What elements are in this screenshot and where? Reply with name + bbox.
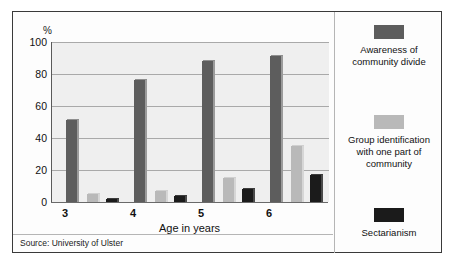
- chart-plot-column: % 100 80 60 40 20 0: [13, 12, 333, 253]
- x-tick-6: 6: [249, 207, 289, 219]
- bar-awareness-3[interactable]: [66, 120, 79, 202]
- x-tick-5: 5: [181, 207, 221, 219]
- source-note: Source: University of Ulster: [20, 238, 123, 248]
- bar-group-6: [270, 42, 326, 202]
- y-tick-20: 20: [17, 164, 47, 176]
- x-tick-3: 3: [45, 207, 85, 219]
- x-tick-4: 4: [113, 207, 153, 219]
- chart-figure: % 100 80 60 40 20 0: [12, 11, 442, 253]
- bar-sectarianism-5[interactable]: [242, 189, 255, 202]
- bar-awareness-6[interactable]: [270, 56, 283, 202]
- bar-awareness-5[interactable]: [202, 61, 215, 202]
- legend-label-groupid-line1: Group identification: [335, 134, 443, 146]
- legend-label-sectarianism-line1: Sectarianism: [335, 227, 443, 239]
- plot-area: [51, 42, 329, 202]
- chart-legend: Awareness of community divide Group iden…: [335, 12, 443, 253]
- y-tick-60: 60: [17, 100, 47, 112]
- bar-groupid-3[interactable]: [87, 194, 100, 202]
- bar-group-4: [134, 42, 190, 202]
- legend-label-groupid-line2: with one part of: [335, 146, 443, 158]
- x-axis-title: Age in years: [51, 222, 328, 234]
- source-divider: [13, 234, 333, 235]
- y-tick-80: 80: [17, 68, 47, 80]
- legend-swatch-awareness-icon: [374, 25, 404, 39]
- bar-group-5: [202, 42, 258, 202]
- legend-item-sectarianism[interactable]: Sectarianism: [335, 208, 443, 239]
- y-tick-40: 40: [17, 132, 47, 144]
- bar-groupid-5[interactable]: [223, 178, 236, 202]
- y-tick-0: 0: [17, 196, 47, 208]
- y-axis-tick-labels: 100 80 60 40 20 0: [13, 42, 47, 203]
- legend-label-groupid-line3: community: [335, 158, 443, 170]
- bar-groupid-6[interactable]: [291, 146, 304, 202]
- bar-group-3: [66, 42, 122, 202]
- y-axis-unit-label: %: [43, 25, 52, 36]
- legend-label-awareness-line1: Awareness of: [335, 44, 443, 56]
- legend-swatch-sectarianism-icon: [374, 208, 404, 222]
- x-axis-line: [51, 202, 328, 203]
- bar-awareness-4[interactable]: [134, 80, 147, 202]
- legend-item-awareness[interactable]: Awareness of community divide: [335, 25, 443, 68]
- y-tick-100: 100: [17, 36, 47, 48]
- bar-groupid-4[interactable]: [155, 191, 168, 202]
- legend-swatch-groupid-icon: [374, 115, 404, 129]
- legend-label-awareness-line2: community divide: [335, 56, 443, 68]
- legend-item-group-identification[interactable]: Group identification with one part of co…: [335, 115, 443, 170]
- bar-sectarianism-6[interactable]: [310, 175, 323, 202]
